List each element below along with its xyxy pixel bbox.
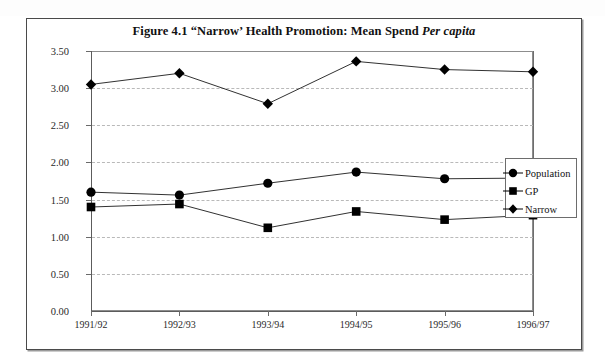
- data-point: [175, 191, 184, 200]
- x-tick-label: 1993/94: [251, 319, 284, 330]
- y-tick-label: 2.50: [51, 120, 69, 131]
- y-tick-label: 2.00: [51, 157, 69, 168]
- data-point: [175, 200, 184, 209]
- legend-item-gp[interactable]: GP: [503, 182, 572, 200]
- data-point: [174, 68, 184, 78]
- series-line: [91, 61, 533, 103]
- series-narrow: [86, 56, 538, 109]
- circle-marker-icon: [503, 166, 523, 180]
- y-tick-label: 1.00: [51, 231, 69, 242]
- x-tick-label: 1992/93: [163, 319, 196, 330]
- data-point: [352, 167, 361, 176]
- diamond-marker-icon: [503, 202, 523, 216]
- plot-wrapper: 0.000.501.001.502.002.503.003.50 1991/92…: [71, 47, 543, 325]
- data-point: [263, 99, 273, 109]
- x-tick-label: 1996/97: [517, 319, 550, 330]
- chart-title-italic: Per capita: [422, 24, 475, 38]
- legend-label-population: Population: [525, 168, 571, 179]
- data-point: [439, 64, 449, 74]
- legend-label-gp: GP: [525, 186, 538, 197]
- x-tick-label: 1995/96: [428, 319, 461, 330]
- legend-label-narrow: Narrow: [525, 204, 557, 215]
- series-line: [91, 172, 533, 195]
- legend-item-narrow[interactable]: Narrow: [503, 200, 572, 218]
- data-point: [351, 56, 361, 66]
- y-tick-label: 1.50: [51, 194, 69, 205]
- series-plot: [91, 51, 534, 312]
- data-point: [528, 67, 538, 77]
- chart-title: Figure 4.1 “Narrow’ Health Promotion: Me…: [27, 24, 581, 39]
- figure-frame: Figure 4.1 “Narrow’ Health Promotion: Me…: [26, 18, 582, 350]
- data-point: [86, 188, 95, 197]
- square-marker-icon: [503, 184, 523, 198]
- y-tick-label: 0.50: [51, 268, 69, 279]
- chart-title-plain: Figure 4.1 “Narrow’ Health Promotion: Me…: [133, 24, 422, 38]
- data-point: [264, 224, 273, 233]
- series-population: [86, 167, 537, 199]
- data-point: [352, 207, 361, 216]
- data-point: [87, 203, 96, 212]
- scanned-page-margin: [0, 0, 605, 16]
- y-tick-label: 3.00: [51, 83, 69, 94]
- data-point: [440, 215, 449, 224]
- series-gp: [87, 200, 538, 232]
- legend-item-population[interactable]: Population: [503, 164, 572, 182]
- data-point: [263, 179, 272, 188]
- data-point: [440, 174, 449, 183]
- legend: Population GP Narrow: [505, 158, 577, 218]
- y-tick-label: 0.00: [51, 306, 69, 317]
- y-tick-label: 3.50: [51, 46, 69, 57]
- x-tick-label: 1991/92: [75, 319, 108, 330]
- series-line: [91, 204, 533, 228]
- x-tick-label: 1994/95: [340, 319, 373, 330]
